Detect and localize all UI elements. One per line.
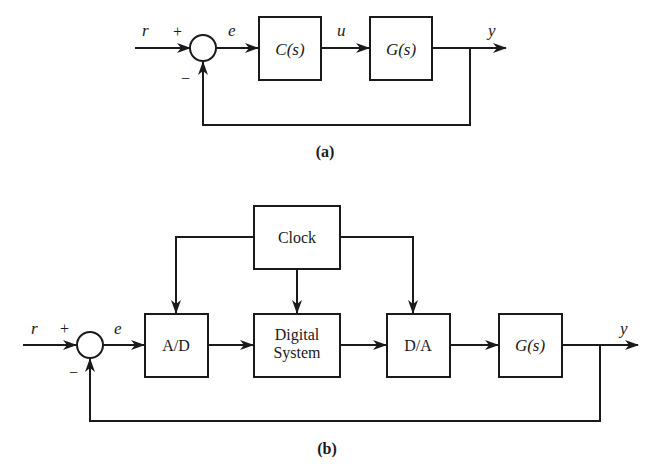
plant-label: G(s) — [386, 40, 417, 59]
clock-to-adc-arrow — [176, 237, 254, 313]
dac-label: D/A — [404, 337, 432, 354]
adc-label: A/D — [162, 337, 190, 354]
digital-system-label-line1: Digital — [275, 326, 320, 344]
signal-u-label: u — [337, 21, 346, 40]
signal-y-label: y — [486, 21, 496, 40]
controller-label: C(s) — [275, 40, 305, 59]
signal-y-label: y — [618, 319, 628, 338]
signal-e-label: e — [114, 319, 122, 338]
clock-to-dac-arrow — [340, 237, 413, 313]
block-diagrams: r + − e C(s) u G(s) y (a) r + − — [0, 0, 657, 473]
summing-junction — [190, 35, 216, 61]
signal-e-label: e — [228, 21, 236, 40]
diagram-b: r + − e A/D Digital System D/A G(s) y — [23, 206, 638, 458]
plus-sign: + — [173, 23, 182, 40]
digital-system-label-line2: System — [273, 344, 321, 362]
diagram-a: r + − e C(s) u G(s) y (a) — [135, 17, 506, 161]
signal-r-label: r — [142, 21, 149, 40]
signal-r-label: r — [31, 319, 38, 338]
caption-a: (a) — [316, 143, 335, 161]
minus-sign: − — [181, 70, 190, 87]
minus-sign: − — [69, 364, 78, 381]
plus-sign: + — [60, 320, 69, 337]
clock-label: Clock — [278, 229, 316, 246]
summing-junction — [77, 332, 103, 358]
plant-label: G(s) — [515, 336, 546, 355]
caption-b: (b) — [317, 440, 337, 458]
